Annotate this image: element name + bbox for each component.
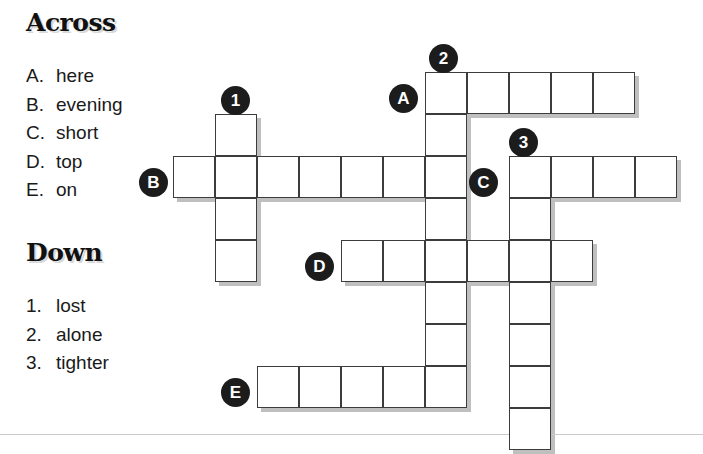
grid-cell[interactable] [551, 156, 593, 198]
grid-cell[interactable] [257, 156, 299, 198]
grid-cell[interactable] [173, 156, 215, 198]
grid-cell[interactable] [383, 156, 425, 198]
grid-cell[interactable] [509, 408, 551, 450]
grid-cell[interactable] [215, 198, 257, 240]
grid-cell[interactable] [593, 156, 635, 198]
grid-cell[interactable] [341, 156, 383, 198]
grid-marker-1: 1 [221, 86, 250, 115]
grid-cell[interactable] [425, 324, 467, 366]
grid-marker-B: B [139, 168, 168, 197]
grid-cell[interactable] [215, 114, 257, 156]
grid-cell[interactable] [509, 366, 551, 408]
grid-cell[interactable] [509, 240, 551, 282]
grid-cell[interactable] [425, 282, 467, 324]
grid-cell[interactable] [635, 156, 677, 198]
grid-cell[interactable] [425, 240, 467, 282]
grid-cell[interactable] [215, 240, 257, 282]
grid-cell[interactable] [425, 72, 467, 114]
grid-cell[interactable] [425, 114, 467, 156]
page-bottom-rule [0, 434, 703, 436]
grid-cell[interactable] [215, 156, 257, 198]
grid-cell[interactable] [383, 366, 425, 408]
grid-marker-2: 2 [429, 44, 458, 73]
grid-marker-D: D [305, 252, 334, 281]
grid-cell[interactable] [383, 240, 425, 282]
grid-cell[interactable] [509, 72, 551, 114]
grid-cell[interactable] [299, 156, 341, 198]
grid-cell[interactable] [509, 156, 551, 198]
grid-cell[interactable] [341, 366, 383, 408]
grid-cell[interactable] [257, 366, 299, 408]
grid-cell[interactable] [425, 198, 467, 240]
grid-cell[interactable] [467, 240, 509, 282]
grid-cell[interactable] [299, 366, 341, 408]
grid-cell[interactable] [509, 198, 551, 240]
grid-cell[interactable] [551, 72, 593, 114]
grid-cell[interactable] [425, 156, 467, 198]
grid-cell[interactable] [425, 366, 467, 408]
grid-marker-E: E [221, 378, 250, 407]
grid-cell[interactable] [509, 324, 551, 366]
grid-cell[interactable] [509, 282, 551, 324]
grid-cell[interactable] [467, 72, 509, 114]
grid-cell[interactable] [593, 72, 635, 114]
grid-marker-A: A [389, 84, 418, 113]
grid-marker-C: C [469, 168, 498, 197]
grid-cell[interactable] [551, 240, 593, 282]
grid-cell[interactable] [341, 240, 383, 282]
grid-marker-3: 3 [509, 128, 538, 157]
